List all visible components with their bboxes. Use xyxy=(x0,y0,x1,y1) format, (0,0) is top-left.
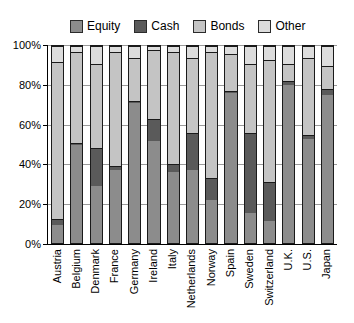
x-axis-label: U.K. xyxy=(282,249,294,270)
bar-segment-equity xyxy=(168,172,179,243)
legend-item-bonds[interactable]: Bonds xyxy=(193,20,244,33)
stacked-bar[interactable] xyxy=(263,45,276,244)
bar-segment-other xyxy=(52,46,63,62)
stacked-bar[interactable] xyxy=(321,45,334,244)
bar-segment-bonds xyxy=(129,58,140,101)
plot-area: 0%20%40%60%80%100% xyxy=(47,45,337,245)
y-axis-label: 60% xyxy=(19,119,41,131)
bar-segment-bonds xyxy=(303,58,314,135)
y-axis-label: 0% xyxy=(25,238,41,250)
bar-segment-other xyxy=(225,46,236,54)
bar-segment-cash xyxy=(245,133,256,214)
stacked-bar[interactable] xyxy=(244,45,257,244)
stacked-bar[interactable] xyxy=(51,45,64,244)
bar-slot xyxy=(125,45,144,244)
x-axis-label: Sweden xyxy=(243,249,255,289)
stacked-bar[interactable] xyxy=(70,45,83,244)
x-label-slot: Denmark xyxy=(86,247,105,321)
bar-slot xyxy=(87,45,106,244)
bar-segment-equity xyxy=(322,95,333,243)
stacked-bar[interactable] xyxy=(302,45,315,244)
x-label-slot: U.S. xyxy=(297,247,316,321)
stacked-bar[interactable] xyxy=(186,45,199,244)
bar-segment-other xyxy=(91,46,102,64)
bar-segment-other xyxy=(264,46,275,60)
legend-swatch-other xyxy=(258,20,271,33)
bar-segment-bonds xyxy=(148,50,159,119)
legend-label-cash: Cash xyxy=(151,20,179,33)
bar-group xyxy=(48,45,337,244)
bar-slot xyxy=(202,45,221,244)
bar-segment-other xyxy=(129,46,140,58)
bar-segment-equity xyxy=(303,139,314,243)
stacked-bar[interactable] xyxy=(90,45,103,244)
y-axis-label: 20% xyxy=(19,198,41,210)
bar-segment-equity xyxy=(148,141,159,243)
x-label-slot: Sweden xyxy=(240,247,259,321)
bar-segment-bonds xyxy=(187,58,198,133)
x-label-slot: Ireland xyxy=(143,247,162,321)
x-label-slot: Italy xyxy=(163,247,182,321)
x-label-slot: Netherlands xyxy=(182,247,201,321)
x-label-slot: Belgium xyxy=(66,247,85,321)
stacked-bar[interactable] xyxy=(147,45,160,244)
bar-segment-bonds xyxy=(110,52,121,166)
stacked-bar[interactable] xyxy=(109,45,122,244)
y-axis-label: 100% xyxy=(13,39,41,51)
bar-segment-other xyxy=(283,46,294,64)
bar-slot xyxy=(164,45,183,244)
x-axis-label: Norway xyxy=(205,249,217,286)
x-label-slot: France xyxy=(105,247,124,321)
x-axis-label: Denmark xyxy=(89,249,101,294)
chart-legend: Equity Cash Bonds Other xyxy=(70,18,305,34)
stacked-bar[interactable] xyxy=(282,45,295,244)
bar-segment-bonds xyxy=(206,52,217,178)
x-axis-label: Italy xyxy=(166,249,178,269)
bar-segment-cash xyxy=(264,182,275,221)
bar-slot xyxy=(183,45,202,244)
bar-slot xyxy=(221,45,240,244)
bar-segment-other xyxy=(303,46,314,58)
bar-slot xyxy=(279,45,298,244)
bar-segment-other xyxy=(245,46,256,64)
x-axis-label: Netherlands xyxy=(185,249,197,308)
stacked-bar[interactable] xyxy=(224,45,237,244)
bar-segment-cash xyxy=(206,178,217,200)
legend-item-equity[interactable]: Equity xyxy=(70,20,120,33)
x-axis-label: France xyxy=(108,249,120,283)
bar-segment-cash xyxy=(91,148,102,185)
bar-segment-bonds xyxy=(283,64,294,82)
bar-segment-other xyxy=(322,46,333,66)
bar-segment-bonds xyxy=(91,64,102,149)
bar-segment-bonds xyxy=(168,52,179,164)
x-axis-label: Ireland xyxy=(147,249,159,283)
legend-swatch-equity xyxy=(70,20,83,33)
stacked-bar-chart: Equity Cash Bonds Other 0%20%40%60%80%10… xyxy=(0,0,354,323)
y-axis-label: 80% xyxy=(19,79,41,91)
bar-segment-equity xyxy=(110,170,121,243)
legend-item-cash[interactable]: Cash xyxy=(134,20,179,33)
x-label-slot: Japan xyxy=(317,247,336,321)
bar-segment-bonds xyxy=(264,60,275,182)
stacked-bar[interactable] xyxy=(205,45,218,244)
x-axis-label: Switzerland xyxy=(263,249,275,306)
x-label-slot: Austria xyxy=(47,247,66,321)
x-label-slot: U.K. xyxy=(278,247,297,321)
bar-segment-equity xyxy=(52,225,63,243)
x-axis-label: Belgium xyxy=(70,249,82,289)
bar-segment-bonds xyxy=(245,64,256,133)
stacked-bar[interactable] xyxy=(128,45,141,244)
legend-item-other[interactable]: Other xyxy=(258,20,305,33)
x-axis-label: Spain xyxy=(224,249,236,277)
bar-segment-equity xyxy=(129,103,140,243)
y-axis-tick xyxy=(43,244,48,245)
bar-segment-equity xyxy=(71,145,82,244)
bar-segment-bonds xyxy=(52,62,63,220)
bar-segment-equity xyxy=(91,186,102,243)
x-label-slot: Switzerland xyxy=(259,247,278,321)
x-label-slot: Spain xyxy=(220,247,239,321)
bar-segment-equity xyxy=(283,85,294,243)
bar-segment-cash xyxy=(168,164,179,172)
bar-segment-equity xyxy=(187,170,198,243)
stacked-bar[interactable] xyxy=(167,45,180,244)
